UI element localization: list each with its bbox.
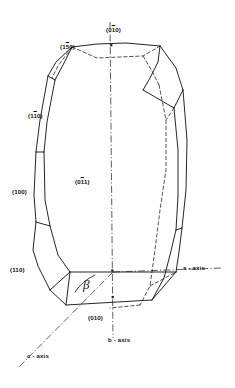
- edge-left-shoulder-cap: [48, 76, 55, 80]
- edge-right-shoulder-vee-right: [174, 90, 183, 108]
- edge-left-shoulder-outer: [48, 47, 72, 76]
- a-axis-line: [113, 268, 222, 272]
- edge-lower-left-inner: [50, 226, 70, 272]
- face-label-100: (100): [12, 189, 27, 195]
- b-axis-line: [110, 22, 113, 338]
- edge-lower-right-outer: [176, 228, 182, 272]
- edge-100-face-bottom: [36, 222, 50, 226]
- edge-lower-right-inner: [152, 230, 176, 300]
- face-label-010-top: (010): [106, 27, 121, 33]
- origin-dot: [111, 269, 113, 271]
- pole-dot-bottom: [112, 296, 114, 298]
- pole-dot-top: [110, 44, 112, 46]
- axis-lines-group: [18, 22, 222, 368]
- edge-100-face-outer: [34, 152, 36, 222]
- axis-label-c: c - axis: [27, 353, 49, 359]
- edge-left-shoulder-inner: [55, 47, 72, 80]
- visible-edges-group: [33, 43, 187, 305]
- edge-right-shoulder-outer: [160, 46, 183, 90]
- hidden-edge-upper-left-rear: [52, 47, 72, 78]
- face-label-110-lower: (110): [10, 267, 25, 273]
- edge-right-shoulder-inner: [143, 46, 160, 90]
- hidden-edge-top-rear: [72, 46, 160, 58]
- edge-base-interior-riser: [66, 272, 70, 305]
- crystal-drawing: [0, 0, 235, 388]
- edge-base-left-diagonal: [50, 272, 70, 290]
- crystal-morphology-figure: (010) (150) (110) (100) (011) (110) (010…: [0, 0, 235, 388]
- hidden-edge-upper-right-rear: [143, 56, 159, 85]
- edge-right-body-junction: [176, 228, 182, 230]
- edge-right-shoulder-vee-left: [143, 90, 174, 108]
- edge-top-front-face: [72, 43, 160, 47]
- hidden-edge-bottom-rear-left: [110, 305, 140, 308]
- edge-lower-left-outer: [33, 222, 50, 290]
- axis-label-a: a - axis: [183, 265, 205, 271]
- face-label-010-bottom: (010): [88, 315, 103, 321]
- face-label-150: (150): [60, 44, 75, 50]
- edge-right-body-outer: [182, 90, 187, 228]
- hidden-edges-group: [52, 46, 176, 308]
- face-label-011: (011): [75, 179, 90, 185]
- hidden-edge-rear-bevel: [166, 108, 174, 120]
- edge-right-body-inner: [174, 108, 178, 230]
- beta-angle-label: β: [83, 277, 89, 293]
- edge-base-front-bottom: [50, 290, 152, 305]
- face-label-110-upper: (110): [28, 113, 43, 119]
- edge-100-face-inner: [44, 152, 50, 226]
- axis-label-b: b - axis: [108, 337, 130, 343]
